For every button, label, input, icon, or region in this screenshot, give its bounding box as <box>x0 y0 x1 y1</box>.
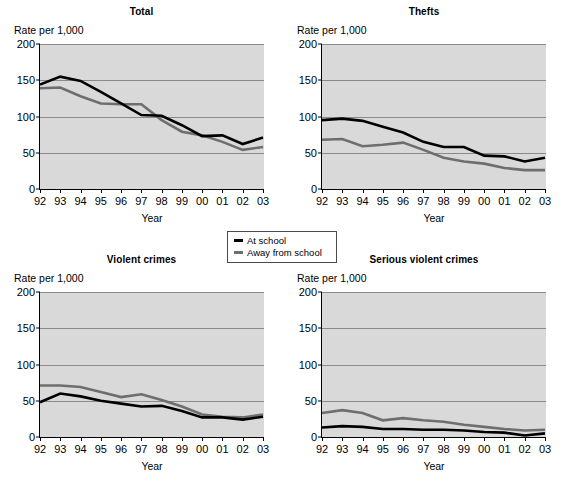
x-tick-label-93: 93 <box>336 195 348 207</box>
y-tick-label-150: 150 <box>17 322 35 334</box>
x-tick-label-96: 96 <box>397 443 409 455</box>
x-tick-label-98: 98 <box>156 443 168 455</box>
x-tick-mark-98 <box>162 437 163 441</box>
y-tick-label-0: 0 <box>311 431 317 443</box>
line-swatch-black-icon <box>234 239 243 242</box>
legend-label-away-from-school: Away from school <box>247 247 322 258</box>
y-tick-mark-200 <box>36 292 40 293</box>
x-tick-mark-96 <box>121 437 122 441</box>
y-tick-label-0: 0 <box>29 431 35 443</box>
x-axis-label-total: Year <box>40 212 264 224</box>
x-tick-mark-93 <box>60 437 61 441</box>
x-tick-mark-98 <box>162 189 163 193</box>
x-tick-mark-94 <box>81 437 82 441</box>
y-tick-mark-150 <box>318 328 322 329</box>
x-tick-mark-95 <box>101 437 102 441</box>
x-tick-label-99: 99 <box>458 443 470 455</box>
x-tick-label-95: 95 <box>95 443 107 455</box>
x-tick-label-01: 01 <box>216 443 228 455</box>
x-tick-mark-94 <box>363 189 364 193</box>
x-tick-label-97: 97 <box>135 195 147 207</box>
plot-canvas-thefts <box>322 44 546 189</box>
plot-canvas-violent-crimes <box>40 292 264 437</box>
x-tick-label-02: 02 <box>237 195 249 207</box>
x-tick-label-01: 01 <box>498 195 510 207</box>
x-tick-mark-02 <box>243 189 244 193</box>
x-tick-mark-99 <box>464 189 465 193</box>
y-tick-label-0: 0 <box>311 183 317 195</box>
y-tick-label-0: 0 <box>29 183 35 195</box>
x-tick-label-94: 94 <box>356 443 368 455</box>
x-tick-mark-94 <box>363 437 364 441</box>
y-tick-mark-50 <box>318 152 322 153</box>
y-tick-mark-200 <box>318 44 322 45</box>
x-tick-mark-99 <box>464 437 465 441</box>
line-swatch-gray-icon <box>234 251 243 254</box>
x-tick-mark-03 <box>545 437 546 441</box>
y-tick-mark-50 <box>36 152 40 153</box>
x-tick-label-01: 01 <box>216 195 228 207</box>
y-tick-label-150: 150 <box>299 74 317 86</box>
x-tick-label-01: 01 <box>498 443 510 455</box>
y-tick-mark-50 <box>36 400 40 401</box>
y-axis-label-violent-crimes: Rate per 1,000 <box>14 272 83 284</box>
x-tick-mark-97 <box>423 437 424 441</box>
x-tick-label-00: 00 <box>478 443 490 455</box>
x-tick-label-92: 92 <box>316 195 328 207</box>
legend-item-at-school: At school <box>234 235 331 246</box>
x-tick-mark-96 <box>121 189 122 193</box>
x-tick-label-99: 99 <box>176 443 188 455</box>
y-tick-label-50: 50 <box>305 147 317 159</box>
x-tick-mark-00 <box>484 189 485 193</box>
x-tick-label-97: 97 <box>417 195 429 207</box>
x-tick-label-92: 92 <box>34 443 46 455</box>
x-tick-mark-01 <box>504 189 505 193</box>
y-tick-label-200: 200 <box>299 38 317 50</box>
plot-canvas-serious-violent-crimes <box>322 292 546 437</box>
y-tick-label-50: 50 <box>23 147 35 159</box>
x-axis-label-violent-crimes: Year <box>40 460 264 472</box>
panel-serious-violent-crimes: Serious violent crimes Rate per 1,000 Ye… <box>283 250 565 497</box>
x-tick-mark-03 <box>263 189 264 193</box>
x-tick-label-92: 92 <box>34 195 46 207</box>
x-tick-label-03: 03 <box>539 195 551 207</box>
legend-item-away-from-school: Away from school <box>234 247 331 258</box>
x-tick-label-96: 96 <box>115 195 127 207</box>
x-tick-mark-92 <box>322 437 323 441</box>
x-tick-label-94: 94 <box>74 443 86 455</box>
x-tick-label-98: 98 <box>438 195 450 207</box>
x-tick-mark-96 <box>403 189 404 193</box>
y-tick-mark-50 <box>318 400 322 401</box>
plot-area-violent-crimes: Year 05010015020092939495969798990001020… <box>40 292 264 437</box>
y-tick-mark-100 <box>36 116 40 117</box>
x-tick-mark-02 <box>243 437 244 441</box>
plot-area-serious-violent-crimes: Year 05010015020092939495969798990001020… <box>322 292 546 437</box>
y-tick-mark-150 <box>36 328 40 329</box>
x-tick-mark-02 <box>525 437 526 441</box>
x-tick-mark-01 <box>504 437 505 441</box>
x-tick-mark-99 <box>182 437 183 441</box>
panel-violent-crimes: Violent crimes Rate per 1,000 Year 05010… <box>0 250 283 497</box>
plot-area-thefts: Year 05010015020092939495969798990001020… <box>322 44 546 189</box>
x-tick-mark-98 <box>444 189 445 193</box>
x-tick-label-95: 95 <box>377 443 389 455</box>
x-tick-label-00: 00 <box>196 443 208 455</box>
y-axis-label-thefts: Rate per 1,000 <box>297 24 366 36</box>
y-tick-label-200: 200 <box>17 38 35 50</box>
panel-thefts: Thefts Rate per 1,000 Year 0501001502009… <box>283 0 565 250</box>
x-tick-mark-93 <box>60 189 61 193</box>
x-tick-label-03: 03 <box>257 443 269 455</box>
x-tick-mark-96 <box>403 437 404 441</box>
panel-total: Total Rate per 1,000 Year 05010015020092… <box>0 0 283 250</box>
x-tick-label-00: 00 <box>478 195 490 207</box>
legend-label-at-school: At school <box>247 235 286 246</box>
x-tick-label-97: 97 <box>135 443 147 455</box>
x-tick-label-93: 93 <box>54 195 66 207</box>
plot-canvas-total <box>40 44 264 189</box>
x-axis-label-serious-violent-crimes: Year <box>322 460 546 472</box>
x-tick-mark-00 <box>202 437 203 441</box>
y-tick-mark-150 <box>36 80 40 81</box>
y-tick-label-200: 200 <box>17 286 35 298</box>
x-tick-mark-95 <box>101 189 102 193</box>
y-tick-label-50: 50 <box>305 395 317 407</box>
